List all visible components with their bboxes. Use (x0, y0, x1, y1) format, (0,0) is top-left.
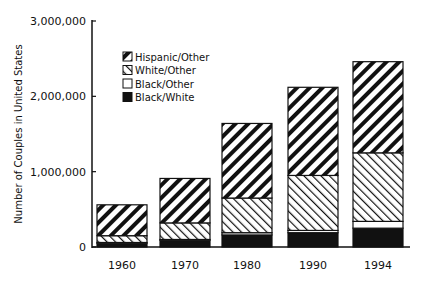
bar-segment-black-white (288, 233, 338, 247)
x-tick-label: 1980 (233, 259, 261, 272)
bar-segment-white-other (160, 223, 210, 240)
bar-segment-black-white (222, 235, 272, 247)
bar-segment-white-other (222, 198, 272, 233)
bar-segment-hispanic-other (160, 178, 210, 222)
bar-segment-white-other (97, 236, 147, 243)
legend-swatch (123, 93, 132, 102)
y-tick-label: 3,000,000 (30, 15, 86, 28)
legend-label: Hispanic/Other (135, 52, 210, 63)
bar-1980: 1980 (222, 123, 272, 272)
legend-item-white-other: White/Other (123, 65, 197, 76)
bar-segment-black-white (160, 240, 210, 247)
x-tick-label: 1990 (299, 259, 327, 272)
axes: 01,000,0002,000,0003,000,000Number of Co… (13, 15, 410, 254)
bar-segment-black-other (353, 221, 403, 228)
y-tick-label: 2,000,000 (30, 90, 86, 103)
bar-1990: 1990 (288, 87, 338, 272)
x-tick-label: 1994 (364, 259, 392, 272)
legend-item-black-other: Black/Other (123, 79, 195, 90)
bar-segment-hispanic-other (222, 123, 272, 198)
bar-segment-hispanic-other (353, 62, 403, 153)
y-tick-label: 0 (79, 241, 86, 254)
legend-label: White/Other (135, 65, 197, 76)
bar-segment-black-white (353, 228, 403, 247)
legend-swatch (123, 66, 132, 75)
legend-item-black-white: Black/White (123, 92, 195, 103)
legend-swatch (123, 52, 132, 61)
bar-1970: 1970 (160, 178, 210, 272)
bar-segment-hispanic-other (97, 205, 147, 236)
bar-1960: 1960 (97, 205, 147, 272)
legend-label: Black/Other (135, 79, 195, 90)
legend-item-hispanic-other: Hispanic/Other (123, 52, 210, 63)
y-tick-label: 1,000,000 (30, 166, 86, 179)
legend: Hispanic/OtherWhite/OtherBlack/OtherBlac… (123, 52, 210, 104)
x-tick-label: 1970 (171, 259, 199, 272)
legend-label: Black/White (135, 92, 195, 103)
x-tick-label: 1960 (108, 259, 136, 272)
legend-swatch (123, 79, 132, 88)
bar-1994: 1994 (353, 62, 403, 272)
stacked-bar-chart: 19601970198019901994 01,000,0002,000,000… (0, 0, 430, 282)
y-axis-label: Number of Couples in United States (13, 44, 24, 223)
bar-segment-hispanic-other (288, 87, 338, 175)
bar-segment-white-other (353, 153, 403, 222)
bar-segment-white-other (288, 175, 338, 230)
